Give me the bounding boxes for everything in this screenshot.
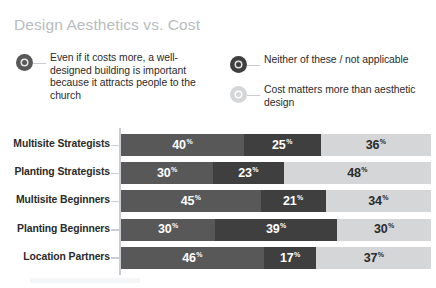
legend-connector-icon bbox=[247, 95, 260, 97]
bar-segment[interactable]: 30% bbox=[121, 162, 213, 184]
bar-row: Planting Beginners30%39%30% bbox=[0, 219, 436, 241]
bar-row: Location Partners46%17%37% bbox=[0, 247, 436, 269]
percent-symbol: % bbox=[171, 166, 177, 173]
bar-segment-value: 39% bbox=[266, 223, 286, 236]
percent-symbol: % bbox=[378, 251, 384, 258]
bar-segment[interactable]: 48% bbox=[284, 162, 431, 184]
legend-item-neither[interactable]: Neither of these / not applicable bbox=[230, 54, 436, 75]
bar-segment[interactable]: 30% bbox=[121, 219, 215, 241]
bar-segment[interactable]: 46% bbox=[121, 247, 264, 269]
bar-segment[interactable]: 23% bbox=[213, 162, 284, 184]
bar-segment[interactable]: 39% bbox=[215, 219, 337, 241]
percent-symbol: % bbox=[186, 138, 192, 145]
legend-item-well-designed[interactable]: Even if it costs more, a well-designed b… bbox=[16, 52, 216, 102]
bar-segment-value: 36% bbox=[366, 139, 386, 152]
percent-symbol: % bbox=[195, 194, 201, 201]
bar-row-label: Location Partners bbox=[23, 251, 110, 262]
bar-segment[interactable]: 36% bbox=[321, 134, 432, 156]
bar-segment-value: 17% bbox=[280, 252, 300, 265]
percent-symbol: % bbox=[382, 194, 388, 201]
percent-symbol: % bbox=[280, 222, 286, 229]
percent-symbol: % bbox=[252, 166, 258, 173]
legend-label-2: Cost matters more than aesthetic design bbox=[264, 84, 436, 109]
legend-connector-icon bbox=[247, 65, 260, 67]
bar-segment-value: 25% bbox=[272, 139, 292, 152]
bar-segment-value: 30% bbox=[157, 167, 177, 180]
percent-symbol: % bbox=[388, 222, 394, 229]
chart-legend: Even if it costs more, a well-designed b… bbox=[0, 44, 436, 122]
bar-segment-value: 21% bbox=[283, 195, 303, 208]
axis-tick bbox=[111, 173, 119, 175]
bar-row-label: Multisite Beginners bbox=[16, 194, 110, 205]
bar-row: Multisite Strategists40%25%36% bbox=[0, 134, 436, 156]
stacked-bar: 45%21%34% bbox=[121, 190, 431, 212]
axis-tick bbox=[111, 229, 119, 231]
bar-row-label: Multisite Strategists bbox=[13, 138, 110, 149]
legend-item-cost-matters[interactable]: Cost matters more than aesthetic design bbox=[230, 84, 436, 109]
bar-segment[interactable]: 21% bbox=[261, 190, 326, 212]
legend-connector-icon bbox=[33, 63, 46, 65]
percent-symbol: % bbox=[297, 194, 303, 201]
bar-segment-value: 37% bbox=[364, 252, 384, 265]
bar-row-label: Planting Beginners bbox=[17, 223, 110, 234]
axis-tick bbox=[111, 257, 119, 259]
bar-segment[interactable]: 37% bbox=[316, 247, 431, 269]
percent-symbol: % bbox=[294, 251, 300, 258]
legend-dot-mid-icon bbox=[230, 56, 247, 73]
legend-marker-0 bbox=[16, 53, 50, 73]
legend-dot-dark-icon bbox=[16, 54, 33, 71]
bar-segment-value: 40% bbox=[172, 139, 192, 152]
bar-segment-value: 46% bbox=[182, 252, 202, 265]
legend-marker-2 bbox=[230, 85, 264, 105]
legend-label-1: Neither of these / not applicable bbox=[264, 54, 409, 67]
percent-symbol: % bbox=[196, 251, 202, 258]
bar-segment[interactable]: 30% bbox=[337, 219, 431, 241]
bar-segment-value: 23% bbox=[238, 167, 258, 180]
bar-row: Multisite Beginners45%21%34% bbox=[0, 190, 436, 212]
bar-segment-value: 48% bbox=[347, 167, 367, 180]
axis-tick bbox=[111, 201, 119, 203]
legend-marker-1 bbox=[230, 55, 264, 75]
legend-label-0: Even if it costs more, a well-designed b… bbox=[50, 52, 216, 102]
chart-canvas: Design Aesthetics vs. Cost Even if it co… bbox=[0, 0, 436, 288]
bar-segment-value: 45% bbox=[181, 195, 201, 208]
percent-symbol: % bbox=[286, 138, 292, 145]
bar-segment[interactable]: 17% bbox=[264, 247, 317, 269]
footer-artifact bbox=[30, 278, 140, 283]
bar-segment-value: 30% bbox=[158, 223, 178, 236]
percent-symbol: % bbox=[172, 222, 178, 229]
percent-symbol: % bbox=[361, 166, 367, 173]
stacked-bar: 30%39%30% bbox=[121, 219, 431, 241]
bar-chart-plot: Multisite Strategists40%25%36%Planting S… bbox=[0, 128, 436, 278]
page-title: Design Aesthetics vs. Cost bbox=[14, 16, 200, 34]
percent-symbol: % bbox=[380, 138, 386, 145]
bar-row-label: Planting Strategists bbox=[14, 166, 110, 177]
bar-segment[interactable]: 40% bbox=[121, 134, 244, 156]
stacked-bar: 40%25%36% bbox=[121, 134, 431, 156]
bar-segment[interactable]: 45% bbox=[121, 190, 261, 212]
bar-segment[interactable]: 25% bbox=[244, 134, 321, 156]
stacked-bar: 30%23%48% bbox=[121, 162, 431, 184]
bar-segment-value: 30% bbox=[374, 223, 394, 236]
bar-row: Planting Strategists30%23%48% bbox=[0, 162, 436, 184]
stacked-bar: 46%17%37% bbox=[121, 247, 431, 269]
axis-tick bbox=[111, 145, 119, 147]
legend-dot-light-icon bbox=[230, 86, 247, 103]
bar-segment[interactable]: 34% bbox=[326, 190, 431, 212]
bar-segment-value: 34% bbox=[368, 195, 388, 208]
